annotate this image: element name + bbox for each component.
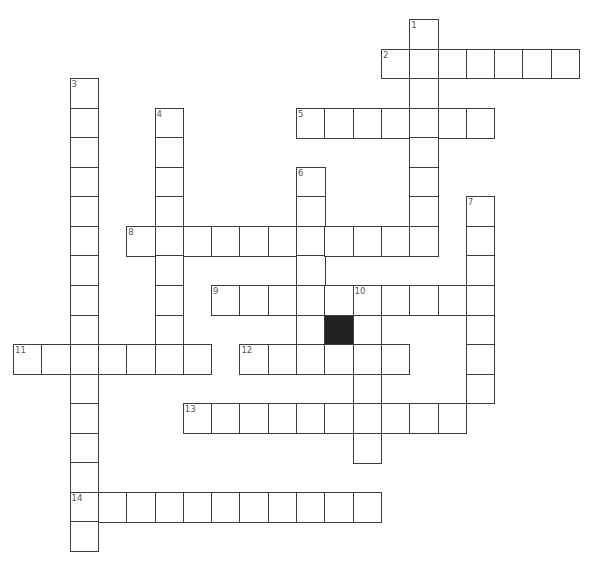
cell-letter-input[interactable] xyxy=(354,345,382,374)
crossword-cell[interactable] xyxy=(409,403,439,434)
crossword-cell[interactable] xyxy=(381,285,411,316)
crossword-cell[interactable] xyxy=(381,108,411,139)
crossword-cell[interactable] xyxy=(155,285,185,316)
crossword-cell-13[interactable]: 13 xyxy=(183,403,213,434)
crossword-cell[interactable] xyxy=(353,315,383,346)
cell-letter-input[interactable] xyxy=(240,286,268,315)
cell-letter-input[interactable] xyxy=(127,493,155,522)
cell-letter-input[interactable] xyxy=(439,50,467,79)
crossword-cell[interactable] xyxy=(324,285,354,316)
crossword-cell[interactable] xyxy=(353,433,383,464)
crossword-cell[interactable] xyxy=(98,492,128,523)
cell-letter-input[interactable] xyxy=(156,197,184,226)
crossword-cell-11[interactable]: 11 xyxy=(13,344,43,375)
crossword-cell[interactable] xyxy=(438,108,468,139)
crossword-cell-8[interactable]: 8 xyxy=(126,226,156,257)
cell-letter-input[interactable] xyxy=(467,50,495,79)
cell-letter-input[interactable] xyxy=(156,316,184,345)
crossword-cell[interactable] xyxy=(296,285,326,316)
cell-letter-input[interactable] xyxy=(240,493,268,522)
cell-letter-input[interactable] xyxy=(467,316,495,345)
cell-letter-input[interactable] xyxy=(99,493,127,522)
crossword-cell[interactable] xyxy=(70,226,100,257)
crossword-cell[interactable] xyxy=(324,226,354,257)
crossword-cell[interactable] xyxy=(353,403,383,434)
cell-letter-input[interactable] xyxy=(212,493,240,522)
cell-letter-input[interactable] xyxy=(184,345,212,374)
cell-letter-input[interactable] xyxy=(71,463,99,492)
crossword-cell[interactable] xyxy=(211,226,241,257)
crossword-cell[interactable] xyxy=(268,492,298,523)
crossword-cell[interactable] xyxy=(324,344,354,375)
cell-letter-input[interactable] xyxy=(410,138,438,167)
crossword-cell[interactable] xyxy=(466,285,496,316)
crossword-cell[interactable] xyxy=(268,403,298,434)
cell-letter-input[interactable] xyxy=(71,286,99,315)
cell-letter-input[interactable] xyxy=(156,256,184,285)
crossword-cell[interactable] xyxy=(268,226,298,257)
crossword-cell[interactable] xyxy=(155,255,185,286)
cell-letter-input[interactable] xyxy=(127,345,155,374)
cell-letter-input[interactable] xyxy=(410,109,438,138)
crossword-cell-10[interactable]: 10 xyxy=(353,285,383,316)
crossword-cell-9[interactable]: 9 xyxy=(211,285,241,316)
crossword-cell[interactable] xyxy=(70,403,100,434)
crossword-cell[interactable] xyxy=(70,462,100,493)
cell-letter-input[interactable] xyxy=(297,286,325,315)
crossword-cell[interactable] xyxy=(70,521,100,552)
cell-letter-input[interactable] xyxy=(156,286,184,315)
cell-letter-input[interactable] xyxy=(212,227,240,256)
cell-letter-input[interactable] xyxy=(42,345,70,374)
crossword-cell[interactable] xyxy=(466,49,496,80)
cell-letter-input[interactable] xyxy=(269,404,297,433)
crossword-cell[interactable] xyxy=(70,108,100,139)
crossword-cell[interactable] xyxy=(522,49,552,80)
cell-letter-input[interactable] xyxy=(297,227,325,256)
crossword-cell[interactable] xyxy=(296,315,326,346)
crossword-cell[interactable] xyxy=(296,196,326,227)
crossword-cell[interactable] xyxy=(438,49,468,80)
crossword-cell[interactable] xyxy=(239,226,269,257)
crossword-cell[interactable] xyxy=(381,226,411,257)
cell-letter-input[interactable] xyxy=(269,227,297,256)
cell-letter-input[interactable] xyxy=(325,345,353,374)
cell-letter-input[interactable] xyxy=(410,404,438,433)
crossword-cell[interactable] xyxy=(155,226,185,257)
cell-letter-input[interactable] xyxy=(439,404,467,433)
crossword-cell[interactable] xyxy=(296,344,326,375)
crossword-cell[interactable] xyxy=(466,374,496,405)
cell-letter-input[interactable] xyxy=(382,404,410,433)
cell-letter-input[interactable] xyxy=(156,227,184,256)
cell-letter-input[interactable] xyxy=(439,286,467,315)
cell-letter-input[interactable] xyxy=(71,256,99,285)
cell-letter-input[interactable] xyxy=(410,168,438,197)
crossword-cell[interactable] xyxy=(70,167,100,198)
crossword-cell-7[interactable]: 7 xyxy=(466,196,496,227)
crossword-cell[interactable] xyxy=(324,108,354,139)
cell-letter-input[interactable] xyxy=(354,375,382,404)
crossword-cell[interactable] xyxy=(268,344,298,375)
cell-letter-input[interactable] xyxy=(71,404,99,433)
cell-letter-input[interactable] xyxy=(523,50,551,79)
cell-letter-input[interactable] xyxy=(297,316,325,345)
cell-letter-input[interactable] xyxy=(325,493,353,522)
crossword-cell[interactable] xyxy=(494,49,524,80)
crossword-cell[interactable] xyxy=(353,374,383,405)
crossword-cell[interactable] xyxy=(551,49,581,80)
cell-letter-input[interactable] xyxy=(71,522,99,551)
crossword-cell[interactable] xyxy=(409,226,439,257)
crossword-cell-14[interactable]: 14 xyxy=(70,492,100,523)
crossword-cell[interactable] xyxy=(70,374,100,405)
cell-letter-input[interactable] xyxy=(71,434,99,463)
cell-letter-input[interactable] xyxy=(269,286,297,315)
crossword-cell[interactable] xyxy=(155,167,185,198)
crossword-cell[interactable] xyxy=(466,315,496,346)
crossword-cell[interactable] xyxy=(155,344,185,375)
crossword-cell[interactable] xyxy=(466,226,496,257)
cell-letter-input[interactable] xyxy=(269,493,297,522)
crossword-cell[interactable] xyxy=(409,196,439,227)
crossword-cell[interactable] xyxy=(324,492,354,523)
cell-letter-input[interactable] xyxy=(439,109,467,138)
crossword-cell[interactable] xyxy=(239,492,269,523)
crossword-cell[interactable] xyxy=(438,285,468,316)
